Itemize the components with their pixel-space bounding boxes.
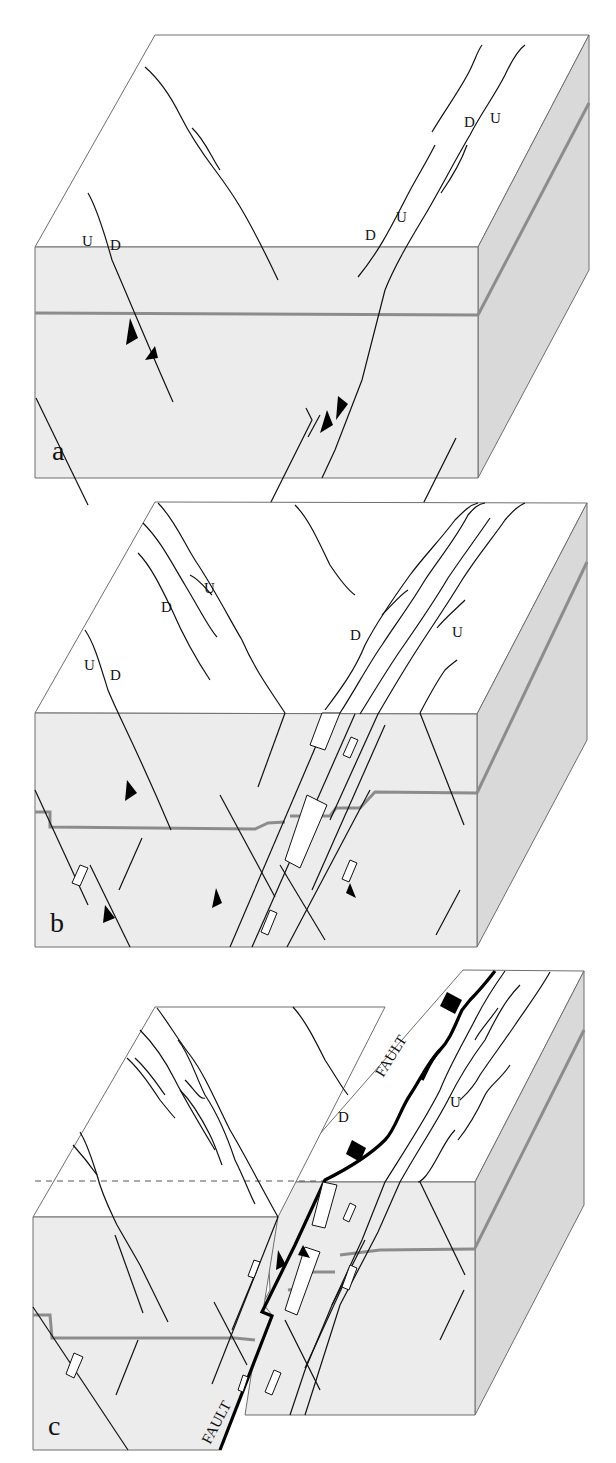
panel-a-label-d3: D bbox=[464, 114, 475, 130]
panel-a-label-d2: D bbox=[365, 227, 376, 243]
panel-a-marker-bed-front bbox=[35, 313, 478, 315]
panel-b-label-u2: U bbox=[84, 657, 95, 673]
panel-b-label-d1: D bbox=[161, 599, 172, 615]
panel-b-letter: b bbox=[50, 907, 64, 938]
panel-c: D U FAULT FAULT c bbox=[33, 970, 584, 1450]
panel-c-left-front-face bbox=[33, 1217, 278, 1450]
panel-c-label-u: U bbox=[450, 1094, 461, 1110]
panel-c-label-d: D bbox=[338, 1109, 349, 1125]
panel-a-front-face bbox=[35, 247, 478, 478]
fault-evolution-diagram: U D D U D U a bbox=[0, 0, 616, 1463]
panel-b-label-u1: U bbox=[204, 580, 215, 596]
panel-c-letter: c bbox=[48, 1410, 60, 1441]
panel-b-label-u3: U bbox=[452, 624, 463, 640]
panel-a: U D D U D U a bbox=[35, 35, 589, 558]
panel-b-label-d2: D bbox=[110, 667, 121, 683]
panel-b: U D U D D U b bbox=[35, 502, 587, 947]
panel-a-label-d1: D bbox=[110, 237, 121, 253]
panel-a-label-u3: U bbox=[490, 110, 501, 126]
panel-b-label-d3: D bbox=[350, 627, 361, 643]
panel-a-label-u1: U bbox=[82, 233, 93, 249]
panel-a-letter: a bbox=[52, 435, 65, 466]
panel-a-label-u2: U bbox=[396, 209, 407, 225]
panel-c-right-front-face bbox=[245, 1182, 475, 1415]
